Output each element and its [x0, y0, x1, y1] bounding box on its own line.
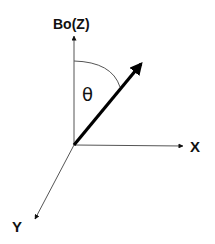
x-axis-label: X: [190, 138, 200, 155]
y-axis: [35, 145, 74, 219]
angle-arc: [74, 61, 120, 87]
coordinate-diagram: Bo(Z) X Y θ: [0, 0, 215, 244]
z-axis-label: Bo(Z): [53, 16, 90, 32]
y-axis-label: Y: [12, 218, 22, 235]
angle-label: θ: [82, 84, 93, 105]
x-axis: [74, 145, 183, 146]
